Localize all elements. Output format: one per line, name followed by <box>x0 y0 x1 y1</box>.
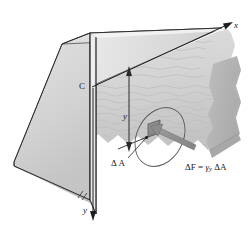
x-axis-label: x <box>234 21 238 30</box>
delta-a-leader-dot <box>145 136 148 139</box>
force-equation-area: ΔA <box>212 162 227 172</box>
force-equation-label: ΔF = γy ΔA <box>185 163 227 173</box>
hydrostatic-pressure-figure: x y C y Δ A ΔF = γy ΔA <box>0 0 249 235</box>
y-axis-label: y <box>83 206 87 215</box>
y-axis-arrowhead <box>90 211 96 221</box>
force-equation-lhs: ΔF = <box>185 162 205 172</box>
dam-left-face <box>14 33 90 200</box>
point-c-label: C <box>79 82 85 91</box>
delta-a-label: Δ A <box>111 159 125 168</box>
x-axis-arrowhead <box>223 22 233 30</box>
depth-dimension-label: y <box>123 112 127 121</box>
